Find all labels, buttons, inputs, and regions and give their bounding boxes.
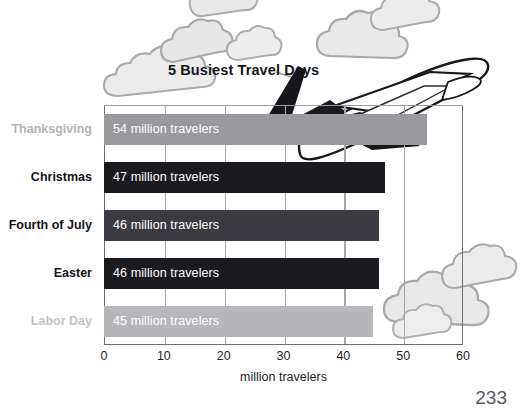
textbook-page: 5 Busiest Travel Days 54 million travele…: [0, 0, 521, 413]
bar-row: 47 million travelers: [104, 162, 463, 193]
page-number: 233: [475, 387, 507, 409]
bar-value-label: 45 million travelers: [104, 314, 219, 328]
x-tick-label-10: 10: [157, 349, 171, 363]
x-axis-title: million travelers: [104, 370, 463, 384]
bar-labor-day: 45 million travelers: [104, 306, 373, 337]
bar-row: 45 million travelers: [104, 306, 463, 337]
cloud-cluster-top-left: [104, 0, 281, 96]
bar-value-label: 54 million travelers: [104, 122, 219, 136]
category-label-labor-day: Labor Day: [31, 314, 92, 328]
bar-christmas: 47 million travelers: [104, 162, 385, 193]
x-tick-label-60: 60: [456, 349, 470, 363]
bar-value-label: 47 million travelers: [104, 170, 219, 184]
bar-easter: 46 million travelers: [104, 258, 379, 289]
category-label-christmas: Christmas: [31, 170, 92, 184]
cloud-cluster-top-right: [317, 0, 439, 58]
bar-row: 54 million travelers: [104, 114, 463, 145]
bar-row: 46 million travelers: [104, 210, 463, 241]
chart-title: 5 Busiest Travel Days: [168, 62, 319, 78]
bar-value-label: 46 million travelers: [104, 266, 219, 280]
x-tick-label-20: 20: [217, 349, 231, 363]
category-axis-labels: ThanksgivingChristmasFourth of JulyEaste…: [0, 105, 99, 345]
category-label-fourth-of-july: Fourth of July: [9, 218, 92, 232]
bar-series: 54 million travelers47 million travelers…: [104, 105, 463, 345]
bar-thanksgiving: 54 million travelers: [104, 114, 427, 145]
category-label-easter: Easter: [54, 266, 92, 280]
x-tick-label-0: 0: [101, 349, 108, 363]
x-tick-label-50: 50: [396, 349, 410, 363]
bar-row: 46 million travelers: [104, 258, 463, 289]
bar-fourth-of-july: 46 million travelers: [104, 210, 379, 241]
bar-value-label: 46 million travelers: [104, 218, 219, 232]
x-tick-label-40: 40: [336, 349, 350, 363]
x-tick-label-30: 30: [277, 349, 291, 363]
category-label-thanksgiving: Thanksgiving: [11, 122, 92, 136]
x-axis-ticks: 0102030405060: [104, 349, 463, 369]
